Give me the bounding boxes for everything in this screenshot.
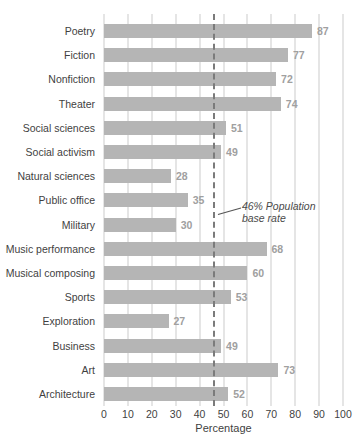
x-tick-label: 40 [194, 408, 206, 420]
bar [104, 242, 267, 256]
category-label: Social activism [0, 146, 104, 158]
value-label: 73 [283, 364, 295, 376]
category-label: Public office [0, 194, 104, 206]
category-label: Music performance [0, 243, 104, 255]
bar-row: Business49 [0, 333, 364, 357]
x-tick-label: 10 [122, 408, 134, 420]
x-tick-label: 70 [265, 408, 277, 420]
horizontal-bar-chart: Poetry87Fiction77Nonfiction72Theater74So… [0, 0, 364, 438]
bar-row: Fiction77 [0, 43, 364, 67]
x-tick-label: 60 [242, 408, 254, 420]
bar-track: 73 [104, 363, 343, 377]
bar-track: 35 [104, 193, 343, 207]
bar-row: Poetry87 [0, 19, 364, 43]
category-label: Social sciences [0, 122, 104, 134]
category-label: Natural sciences [0, 170, 104, 182]
bar [104, 169, 171, 183]
bar [104, 145, 221, 159]
value-label: 77 [293, 49, 305, 61]
bar-track: 72 [104, 72, 343, 86]
bar-track: 49 [104, 339, 343, 353]
category-label: Nonfiction [0, 73, 104, 85]
bar-row: Nonfiction72 [0, 67, 364, 91]
category-label: Theater [0, 98, 104, 110]
bar-track: 87 [104, 24, 343, 38]
category-label: Architecture [0, 388, 104, 400]
category-label: Fiction [0, 49, 104, 61]
bar-row: Music performance68 [0, 237, 364, 261]
value-label: 28 [176, 170, 188, 182]
bar [104, 48, 288, 62]
bar-track: 68 [104, 242, 343, 256]
bar-row: Architecture52 [0, 382, 364, 406]
bar-row: Musical composing60 [0, 261, 364, 285]
bar-row: Sports53 [0, 285, 364, 309]
bar-track: 30 [104, 218, 343, 232]
bar [104, 72, 276, 86]
bar [104, 339, 221, 353]
value-label: 87 [317, 25, 329, 37]
value-label: 49 [226, 146, 238, 158]
bar [104, 266, 247, 280]
x-tick-label: 80 [289, 408, 301, 420]
chart-rows: Poetry87Fiction77Nonfiction72Theater74So… [0, 19, 364, 406]
value-label: 72 [281, 73, 293, 85]
category-label: Exploration [0, 315, 104, 327]
category-label: Art [0, 364, 104, 376]
category-label: Poetry [0, 25, 104, 37]
bar-track: 52 [104, 387, 343, 401]
bar-track: 53 [104, 290, 343, 304]
bar [104, 387, 228, 401]
bar-track: 27 [104, 314, 343, 328]
category-label: Musical composing [0, 267, 104, 279]
x-tick-label: 0 [101, 408, 107, 420]
bar-track: 74 [104, 97, 343, 111]
x-tick-label: 100 [334, 408, 352, 420]
value-label: 53 [236, 291, 248, 303]
value-label: 68 [272, 243, 284, 255]
bar-track: 49 [104, 145, 343, 159]
x-tick-label: 90 [313, 408, 325, 420]
bar-row: Exploration27 [0, 309, 364, 333]
bar-track: 28 [104, 169, 343, 183]
x-tick-label: 30 [170, 408, 182, 420]
bar [104, 193, 188, 207]
bar-row: Natural sciences28 [0, 164, 364, 188]
bar [104, 363, 278, 377]
value-label: 52 [233, 388, 245, 400]
category-label: Business [0, 340, 104, 352]
bar-row: Theater74 [0, 92, 364, 116]
value-label: 30 [181, 219, 193, 231]
x-tick-label: 20 [146, 408, 158, 420]
bar-row: Social activism49 [0, 140, 364, 164]
value-label: 51 [231, 122, 243, 134]
bar [104, 24, 312, 38]
value-label: 49 [226, 340, 238, 352]
category-label: Sports [0, 291, 104, 303]
bar [104, 290, 231, 304]
bar-row: Military30 [0, 213, 364, 237]
bar [104, 121, 226, 135]
value-label: 60 [252, 267, 264, 279]
bar [104, 314, 169, 328]
x-axis-title: Percentage [104, 422, 343, 434]
value-label: 27 [174, 315, 186, 327]
bar [104, 97, 281, 111]
bar-row: Art73 [0, 358, 364, 382]
category-label: Military [0, 219, 104, 231]
bar [104, 218, 176, 232]
x-tick-label: 50 [218, 408, 230, 420]
value-label: 74 [286, 98, 298, 110]
bar-row: Social sciences51 [0, 116, 364, 140]
x-axis-ticks: 0102030405060708090100 [104, 408, 343, 421]
value-label: 35 [193, 194, 205, 206]
bar-track: 51 [104, 121, 343, 135]
bar-track: 77 [104, 48, 343, 62]
bar-row: Public office35 [0, 188, 364, 212]
bar-track: 60 [104, 266, 343, 280]
